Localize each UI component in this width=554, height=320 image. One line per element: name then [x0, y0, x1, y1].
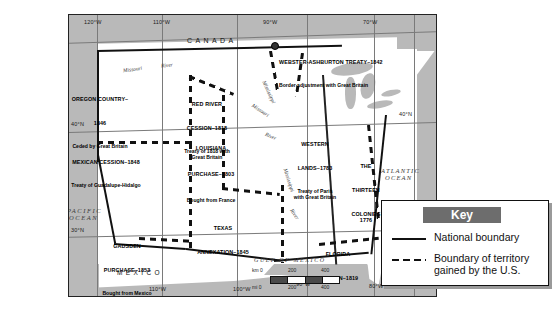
map-figure: 120°W 110°W 90°W 70°W 110°W 100°W 80°W 9… — [0, 0, 554, 320]
key-swatch-solid-line-icon — [392, 232, 426, 240]
river-label-missouri-river: River — [161, 61, 173, 68]
ocean-label-pacific-line1: PACIFIC — [68, 207, 102, 214]
grat-label: 40°N — [399, 111, 412, 117]
territory-line1: OREGON COUNTRY– — [68, 96, 156, 102]
scale-segment — [288, 277, 305, 283]
territory-line2: LANDS–1783 — [279, 165, 351, 171]
grat-label: 100°W — [233, 286, 251, 292]
scale-km-tick-200: 200 — [288, 267, 296, 273]
grat-label: 90°W — [263, 19, 277, 25]
map-key: Key National boundary Boundary of territ… — [381, 200, 549, 286]
territory-line1: WEBSTER-ASHBURTON TREATY–1842 — [279, 59, 437, 65]
territory-line2: PURCHASE–1803 — [167, 171, 255, 177]
grat-label: 70°W — [363, 19, 377, 25]
scale-segment — [306, 277, 323, 283]
key-swatch-dashed-line-icon — [392, 253, 426, 261]
scale-km-label: km 0 — [252, 267, 263, 273]
territory-label-texas-annexation: TEXAS ANNEXATION–1845 — [179, 207, 267, 273]
scale-segment — [323, 277, 339, 283]
scale-mi-tick-200: 200 — [288, 284, 296, 290]
grat-label: 110°W — [153, 19, 170, 25]
territory-line3: Treaty of Guadalupe-Hidalgo — [68, 183, 174, 189]
territory-line3: Bought from France — [167, 198, 255, 204]
key-label: National boundary — [434, 232, 519, 244]
key-title: Key — [423, 207, 501, 223]
territory-line2: THIRTEEN — [346, 187, 386, 193]
ocean-label-atlantic: ATLANTIC OCEAN — [381, 167, 420, 181]
ocean-label-atlantic-line1: ATLANTIC — [381, 167, 420, 174]
territory-line1: LOUISIANA — [167, 145, 255, 151]
territory-line1: RED RIVER — [166, 101, 248, 107]
territory-line1: TEXAS — [179, 225, 267, 231]
ocean-label-pacific: PACIFIC OCEAN — [68, 207, 102, 221]
key-entry-national-boundary: National boundary — [392, 232, 542, 244]
territory-line1: FLORIDA — [304, 251, 372, 257]
territory-line1: GADSDEN — [82, 243, 172, 249]
territory-line2: 1846 — [68, 120, 156, 126]
grat-label: 120°W — [84, 19, 102, 25]
territory-label-thirteen-colonies: THE THIRTEEN COLONIES 1776 — [346, 145, 386, 241]
territory-label-webster-ashburton: WEBSTER-ASHBURTON TREATY–1842 Border adj… — [279, 41, 437, 106]
ocean-label-pacific-line2: OCEAN — [68, 214, 102, 221]
territory-line3: COLONIES 1776 — [346, 211, 386, 223]
scale-bar — [270, 276, 340, 284]
territory-label-mexican-cession: MEXICAN CESSION–1848 Treaty of Guadalupe… — [68, 141, 174, 206]
key-label: Boundary of territory gained by the U.S. — [434, 253, 529, 277]
territory-line1: THE — [346, 163, 386, 169]
territory-line1: WESTERN — [279, 141, 351, 147]
scale-segment — [271, 277, 288, 283]
webster-ashburton-marker-icon — [271, 42, 279, 50]
territory-line3: Treaty of Paris with Great Britain — [279, 189, 351, 200]
scale-mi-tick-400: 400 — [321, 284, 329, 290]
territory-line2: ANNEXATION–1845 — [179, 249, 267, 255]
territory-line3: Bought from Mexico — [82, 291, 172, 297]
scale-bar-group: km 0 200 400 mi 0 200 400 — [252, 267, 344, 293]
territory-line3: Border adjustment with Great Britain — [279, 83, 437, 89]
territory-label-gadsden-purchase: GADSDEN PURCHASE–1853 Bought from Mexico — [82, 225, 172, 297]
territory-line2: PURCHASE–1853 — [82, 267, 172, 273]
scale-km-tick-400: 400 — [321, 267, 329, 273]
scale-mi-label: mi 0 — [252, 284, 261, 290]
territory-label-western-lands: WESTERN LANDS–1783 Treaty of Paris with … — [279, 123, 351, 218]
key-entry-territory-boundary: Boundary of territory gained by the U.S. — [392, 253, 544, 277]
ocean-label-atlantic-line2: OCEAN — [381, 174, 420, 181]
country-label-canada: CANADA — [187, 37, 237, 44]
territory-line1: MEXICAN CESSION–1848 — [68, 159, 174, 165]
